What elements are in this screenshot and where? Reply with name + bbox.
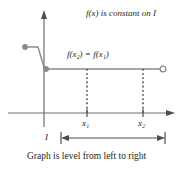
- figure-constant-function: f(x) is constant on I f(x₂) = f(x₁) x₁ x…: [0, 0, 187, 171]
- interval-label: I: [45, 133, 48, 142]
- function-left-branch: [25, 47, 45, 69]
- x1-tick-label: x₁: [82, 119, 89, 128]
- title-label: f(x) is constant on I: [86, 9, 156, 18]
- figure-caption: Graph is level from left to right: [27, 152, 146, 162]
- closed-endpoint-constant-icon: [43, 66, 49, 72]
- x2-tick-label: x₂: [138, 119, 145, 128]
- x-axis: [8, 110, 175, 116]
- function-value-label: f(x₂) = f(x₁): [67, 50, 109, 59]
- interval-bracket: [61, 132, 165, 144]
- open-endpoint-constant-icon: [160, 66, 166, 72]
- figure-graphics: [0, 0, 187, 171]
- closed-endpoint-left-icon: [22, 44, 28, 50]
